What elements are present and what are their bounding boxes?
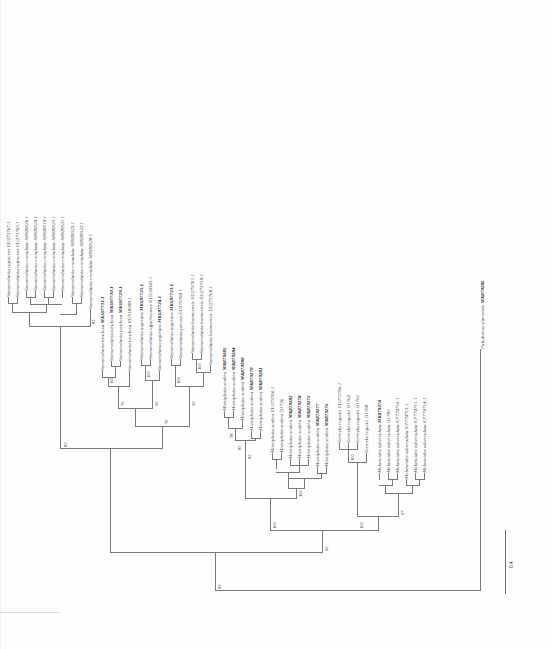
tip-label: Sermyla riquetii D1762 bbox=[346, 395, 351, 443]
tip-name: Mieniplotia scabra bbox=[222, 372, 227, 411]
tip-accession: AB920319.1 bbox=[42, 216, 47, 241]
page-edge-left bbox=[0, 0, 1, 649]
bootstrap-value: 100 bbox=[299, 490, 304, 497]
branch bbox=[210, 365, 211, 373]
tip-label: Stenomelania rufescens EU273767.1 bbox=[6, 221, 11, 297]
tip-name: Stenomelania torulosa bbox=[109, 315, 114, 361]
branch bbox=[233, 411, 234, 418]
phylogenetic-tree-figure: Stenomelania rufescens EU273767.1 Stenom… bbox=[0, 0, 551, 649]
tip-name: Mieniplotia scabra bbox=[258, 392, 263, 431]
tip-label: Stenomelania aspirans MK697725.1 bbox=[139, 284, 144, 359]
tip-name: Melanoides tuberculata bbox=[386, 424, 391, 473]
tip-label: Mieniplotia scabra MK879284 bbox=[231, 347, 236, 411]
tip-name: Melanoides tuberculata bbox=[377, 424, 382, 473]
branch bbox=[378, 517, 379, 531]
branch bbox=[392, 480, 393, 486]
branch bbox=[281, 453, 282, 460]
tip-name: Stenomelania crenulata bbox=[60, 242, 65, 291]
branch bbox=[357, 489, 358, 517]
branch bbox=[379, 473, 380, 480]
branch bbox=[288, 473, 289, 489]
bootstrap-value: 100 bbox=[147, 371, 152, 378]
tip-name: Paludomus siamensis bbox=[480, 305, 485, 349]
branch bbox=[60, 314, 76, 315]
tip-accession: AB920326.1 bbox=[24, 216, 29, 241]
tip-label: Stenomelania crenulata AB920321.1 bbox=[60, 216, 65, 291]
tip-accession: MK879280 bbox=[240, 357, 245, 380]
tip-name: Stenomelania crenulata bbox=[24, 242, 29, 291]
branch bbox=[110, 552, 322, 553]
branch bbox=[35, 291, 36, 298]
tip-accession: MK879277 bbox=[315, 403, 320, 426]
tip-label: Stenomelania crenulata AB920320.1 bbox=[88, 234, 93, 309]
tip-accession: MK879285 bbox=[222, 347, 227, 370]
tip-accession: D1762 bbox=[346, 395, 351, 409]
branch bbox=[308, 459, 309, 466]
branch bbox=[245, 461, 246, 499]
tip-accession: MK697725.1 bbox=[139, 284, 144, 311]
tip-accession: MK697731.1 bbox=[100, 296, 105, 323]
tip-accession: KU318390.1 bbox=[127, 297, 132, 323]
tip-accession: MK697730.1 bbox=[109, 286, 114, 313]
tip-name: Stenomelania aspirans bbox=[157, 324, 162, 371]
tip-label: Sermyla riquetii EU273766.1 bbox=[337, 383, 342, 443]
tip-name: Stenomelania aspirans bbox=[139, 312, 144, 359]
bootstrap-value: 100 bbox=[177, 377, 182, 384]
tip-accession: AB920325.1 bbox=[51, 216, 56, 241]
tip-accession: EU273765.1 bbox=[15, 221, 20, 247]
tip-name: Mieniplotia scabra bbox=[249, 392, 254, 431]
tip-accession: KP774714.1 bbox=[422, 398, 427, 424]
tip-label: Stenomelania torulosa KU318390.1 bbox=[127, 297, 132, 371]
branch bbox=[242, 421, 243, 429]
tip-accession: MK697723.1 bbox=[169, 284, 174, 311]
figure-page: Stenomelania rufescens EU273767.1 Stenom… bbox=[0, 0, 551, 649]
tip-accession: D1736 bbox=[279, 399, 284, 413]
tip-label: Stenomelania offachoensis KU318343.1 bbox=[148, 277, 153, 359]
branch bbox=[398, 494, 399, 517]
branch bbox=[62, 291, 63, 298]
branch bbox=[424, 473, 425, 480]
tip-label: Mieniplotia scabra MK879275 bbox=[306, 395, 311, 459]
tip-accession: AB920321.1 bbox=[60, 216, 65, 241]
branch bbox=[276, 460, 277, 469]
tip-label: Stenomelania aspirans MK697724.1 bbox=[157, 296, 162, 371]
tip-name: Stenomelania juncea bbox=[178, 316, 183, 359]
tip-accession: AB920322.1 bbox=[79, 222, 84, 247]
tip-name: Mieniplotia scabra bbox=[270, 414, 275, 453]
branch bbox=[366, 453, 367, 463]
tip-label: Mieniplotia scabra MK879279 bbox=[249, 367, 254, 431]
branch bbox=[129, 371, 130, 387]
branch bbox=[150, 359, 151, 366]
branch bbox=[215, 590, 480, 591]
branch bbox=[159, 371, 160, 381]
tip-accession: EU273759.1 bbox=[199, 274, 204, 300]
tip-accession: MK879282 bbox=[288, 395, 293, 418]
branch bbox=[326, 467, 327, 474]
tip-label: Mieniplotia scabra MK879285 bbox=[222, 347, 227, 411]
branch bbox=[480, 349, 481, 591]
scale-bar-label: 0.4 bbox=[508, 562, 514, 568]
tip-accession: MK879279 bbox=[249, 367, 254, 390]
branch bbox=[120, 361, 121, 367]
branch bbox=[135, 409, 136, 427]
branch bbox=[118, 387, 119, 409]
branch bbox=[321, 474, 322, 479]
tree-canvas: Stenomelania rufescens EU273767.1 Stenom… bbox=[0, 0, 551, 649]
branch bbox=[180, 359, 181, 366]
bootstrap-value: 82 bbox=[64, 442, 69, 447]
branch bbox=[60, 339, 61, 449]
branch bbox=[29, 313, 30, 327]
tip-label: Melanoides tuberculata KP774714.1 bbox=[422, 398, 427, 474]
branch bbox=[60, 448, 162, 449]
tip-label: Mieniplotia scabra MK879280 bbox=[240, 357, 245, 421]
tip-label: Mieniplotia scabra MK879277 bbox=[315, 403, 320, 467]
tip-name: Stenomelania crenulata bbox=[79, 248, 84, 297]
tip-accession: MK697729.1 bbox=[118, 286, 123, 313]
branch bbox=[299, 466, 300, 473]
tip-label: Melanoides tuberculata KP774716.1 bbox=[395, 398, 400, 474]
branch bbox=[110, 449, 111, 509]
tip-name: Stenomelania aspirans bbox=[169, 312, 174, 359]
tip-name: Mieniplotia scabra bbox=[315, 428, 320, 467]
branch bbox=[81, 297, 82, 304]
tip-label: Stenomelania bonneensis EU273759.1 bbox=[199, 274, 204, 353]
